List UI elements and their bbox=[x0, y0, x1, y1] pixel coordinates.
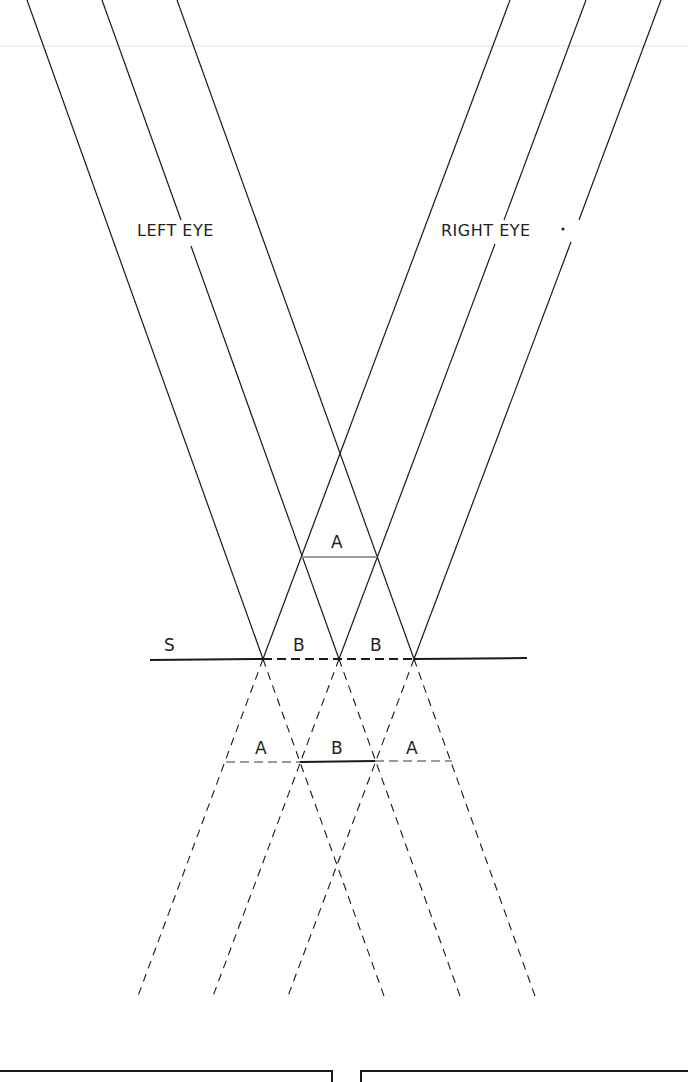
right-ray-1 bbox=[263, 0, 510, 659]
label-b-right: B bbox=[370, 635, 382, 655]
screen-line bbox=[150, 658, 527, 660]
stereo-vision-diagram: LEFT EYE RIGHT EYE A S B B A B A bbox=[0, 0, 688, 1082]
bottom-frames bbox=[0, 1071, 688, 1082]
dot-marker bbox=[561, 227, 564, 230]
right-ray-3a bbox=[579, 0, 661, 220]
left-eye-rays bbox=[27, 0, 414, 659]
left-ray-2b bbox=[191, 246, 339, 659]
left-eye-label: LEFT EYE bbox=[137, 221, 214, 240]
label-b-lower: B bbox=[331, 738, 343, 758]
label-a-lower-left: A bbox=[255, 738, 267, 758]
right-ray-3b bbox=[414, 242, 571, 659]
left-ray-3 bbox=[177, 0, 414, 659]
right-eye-rays bbox=[263, 0, 661, 659]
right-ray-2a bbox=[504, 0, 586, 220]
left-frame bbox=[0, 1071, 332, 1082]
left-ray-2a bbox=[102, 0, 181, 220]
lower-fusion-line bbox=[226, 761, 452, 762]
right-eye-label: RIGHT EYE bbox=[441, 221, 531, 240]
right-ray-2b bbox=[339, 244, 495, 659]
left-ray-1 bbox=[27, 0, 263, 659]
label-a-top: A bbox=[331, 532, 343, 552]
label-a-lower-right: A bbox=[406, 738, 418, 758]
ray-extensions bbox=[138, 659, 535, 996]
right-frame bbox=[361, 1071, 688, 1082]
label-b-left: B bbox=[293, 635, 305, 655]
label-s: S bbox=[164, 635, 175, 655]
